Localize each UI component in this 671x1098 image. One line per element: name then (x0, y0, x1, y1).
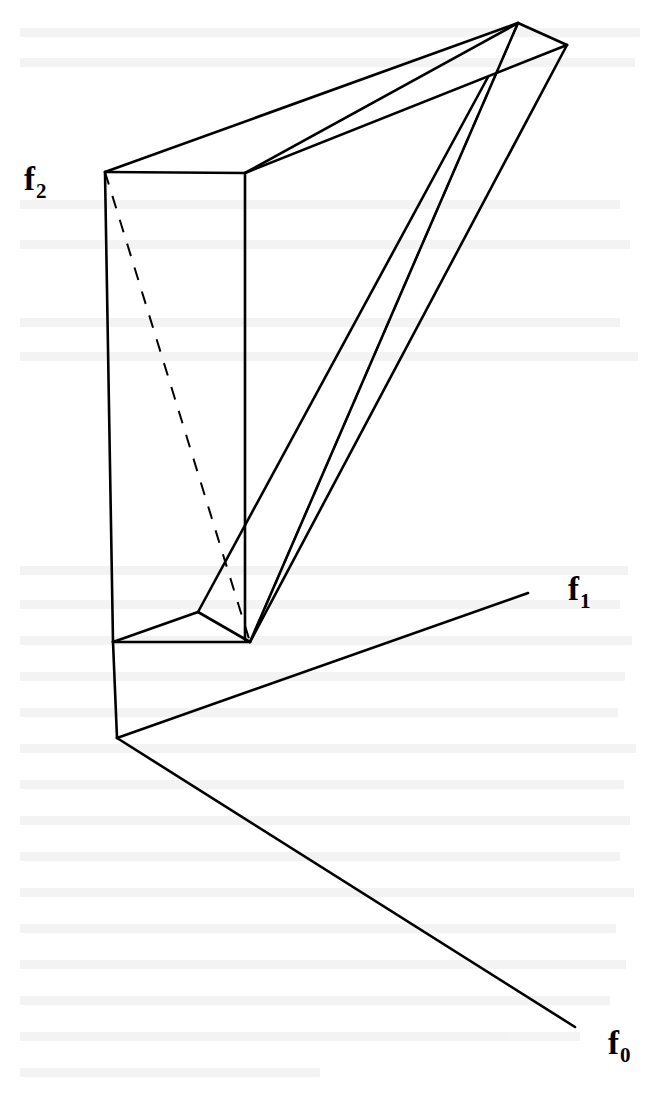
axis-label-f0-subscript: 0 (620, 1043, 631, 1067)
axis-label-f1: f1 (568, 573, 590, 606)
edge-5 (105, 172, 113, 642)
axis-label-f1-subscript: 1 (580, 589, 591, 613)
edge-3 (518, 23, 567, 45)
axis-label-f2-base: f (24, 161, 35, 197)
axis-label-f2-subscript: 2 (36, 179, 47, 203)
hidden-edges-group (105, 23, 518, 642)
figure-page: f2 f1 f0 (0, 0, 671, 1098)
edge-0 (105, 172, 245, 173)
edge-9 (198, 612, 250, 642)
edge-14 (117, 593, 528, 738)
wireframe-figure (0, 0, 671, 1098)
axis-label-f2: f2 (24, 163, 46, 196)
axis-label-f1-base: f (568, 571, 579, 607)
edge-1 (105, 23, 518, 172)
solid-edges-group (105, 23, 575, 1027)
axis-label-f0: f0 (608, 1027, 630, 1060)
edge-12 (250, 45, 567, 642)
edge-15 (117, 738, 575, 1027)
edge-13 (113, 642, 117, 738)
edge-8 (113, 612, 198, 642)
axis-label-f0-base: f (608, 1025, 619, 1061)
hidden-edge-0 (105, 172, 250, 642)
edge-10 (198, 77, 488, 612)
